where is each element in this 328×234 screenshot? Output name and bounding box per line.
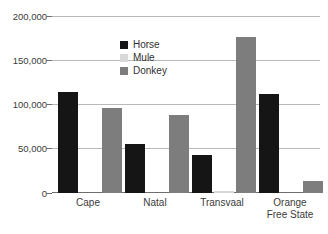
gridline-150000 (52, 60, 320, 61)
bar-orange-free-state-donkey (303, 181, 323, 193)
bar-chart: 200,000 150,000 100,000 50,000 0 (0, 0, 328, 234)
bar-natal-horse (125, 144, 145, 193)
gridline-200000 (52, 16, 320, 17)
chart-legend: Horse Mule Donkey (120, 38, 167, 77)
legend-swatch-icon-horse (120, 41, 128, 49)
legend-item-horse: Horse (120, 38, 167, 51)
x-tick-label-transvaal: Transvaal (192, 197, 252, 209)
bar-transvaal-horse (192, 155, 212, 193)
x-tick-label-orange-free-state: Orange Free State (259, 197, 321, 220)
x-tick-label-line1: Cape (58, 197, 118, 209)
y-tick-label-100000: 100,000 (0, 99, 52, 110)
x-tick-label-cape: Cape (58, 197, 118, 209)
x-tick-label-line1: Orange (259, 197, 321, 209)
x-tick-label-line1: Transvaal (192, 197, 252, 209)
bar-cape-donkey (102, 108, 122, 193)
y-tick-mark (46, 193, 52, 194)
gridline-100000 (52, 104, 320, 105)
x-tick-label-line1: Natal (125, 197, 185, 209)
bar-transvaal-mule (214, 191, 234, 193)
bar-cape-horse (58, 92, 78, 193)
legend-label-horse: Horse (133, 39, 160, 50)
legend-swatch-icon-donkey (120, 67, 128, 75)
plot-area (52, 16, 320, 193)
legend-item-donkey: Donkey (120, 64, 167, 77)
bar-orange-free-state-horse (259, 94, 279, 193)
bar-natal-donkey (169, 115, 189, 193)
y-tick-label-0: 0 (0, 188, 52, 199)
legend-item-mule: Mule (120, 51, 167, 64)
y-tick-label-50000: 50,000 (0, 143, 52, 154)
bar-transvaal-donkey (236, 37, 256, 193)
x-tick-label-natal: Natal (125, 197, 185, 209)
x-tick-label-line2: Free State (259, 209, 321, 221)
y-tick-label-150000: 150,000 (0, 55, 52, 66)
legend-label-donkey: Donkey (133, 65, 167, 76)
y-tick-label-200000: 200,000 (0, 11, 52, 22)
legend-swatch-icon-mule (120, 54, 128, 62)
legend-label-mule: Mule (133, 52, 155, 63)
